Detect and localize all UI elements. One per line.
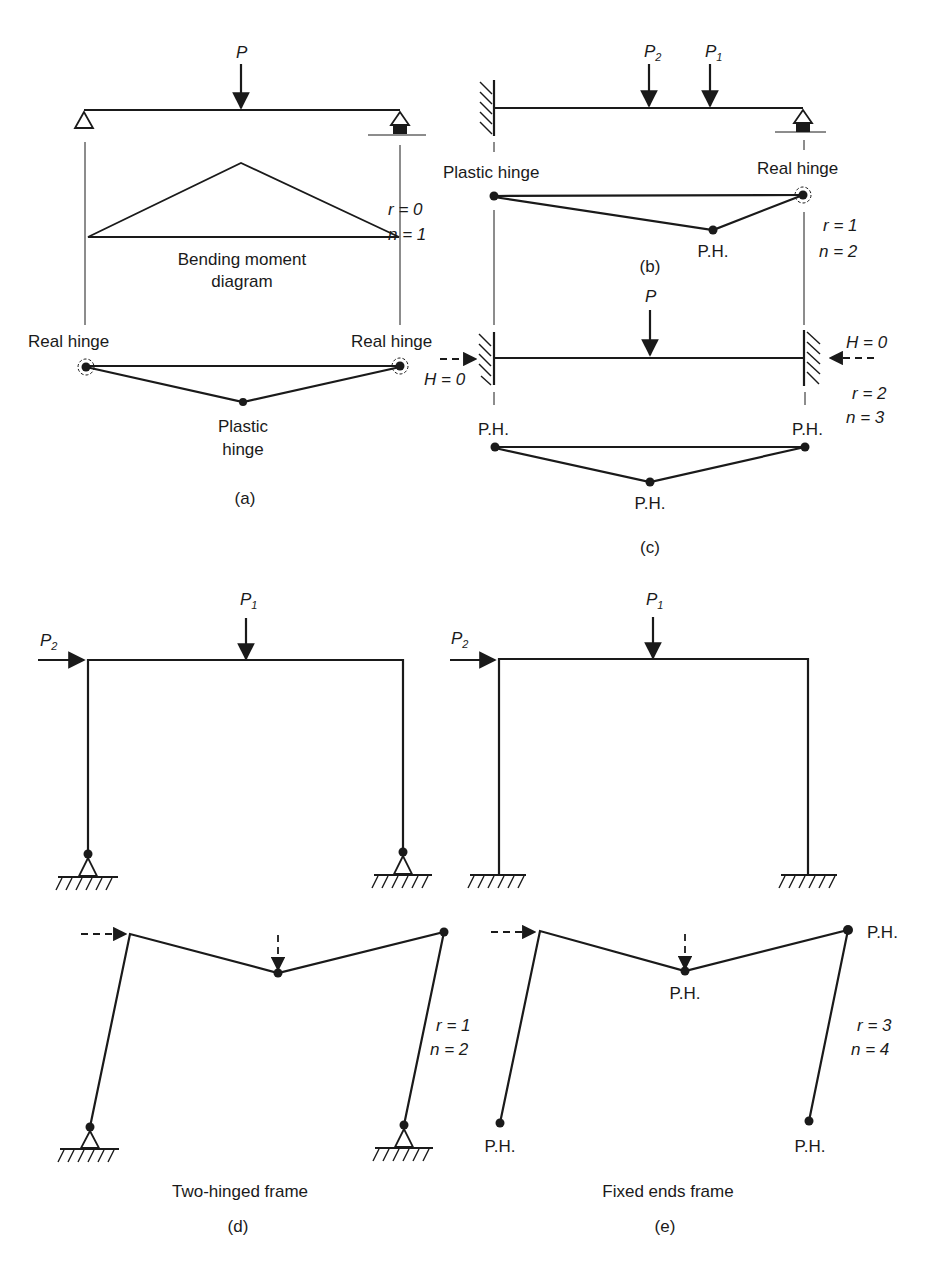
pin-support-left-icon bbox=[79, 858, 97, 876]
h-left-label: H = 0 bbox=[424, 370, 466, 389]
load-p2-label: P2 bbox=[40, 631, 57, 652]
collapse-mechanisms-figure: P Bending moment diagram r = 0 n = 1 Rea… bbox=[0, 0, 940, 1267]
panel-d: P1 P2 bbox=[38, 590, 471, 1236]
panel-e: P1 P2 P.H. P.H. P.H. P.H. r = 3 n = 4 Fi… bbox=[450, 590, 898, 1236]
panel-a: P Bending moment diagram r = 0 n = 1 Rea… bbox=[28, 43, 432, 508]
sway-mechanism-shape bbox=[500, 930, 848, 1123]
n-label: n = 2 bbox=[819, 242, 858, 261]
ground-hatch-right-icon bbox=[373, 1149, 429, 1161]
pin-support-icon bbox=[75, 112, 93, 128]
plastic-hinge-base-left-icon bbox=[496, 1119, 505, 1128]
plastic-hinge-icon bbox=[239, 398, 247, 406]
load-p1-label: P1 bbox=[646, 590, 663, 611]
h-right-label: H = 0 bbox=[846, 333, 888, 352]
n-label: n = 3 bbox=[846, 408, 885, 427]
real-hinge-right-icon bbox=[396, 362, 405, 371]
portal-frame bbox=[88, 660, 403, 854]
ph-mid-label: P.H. bbox=[635, 494, 666, 513]
ph-label: P.H. bbox=[698, 242, 729, 261]
bm-label-line1: Bending moment bbox=[178, 250, 307, 269]
ph-mid-label: P.H. bbox=[670, 984, 701, 1003]
ph-left-label: P.H. bbox=[478, 420, 509, 439]
plastic-hinge-mid-icon bbox=[709, 226, 718, 235]
ph-base-left-label: P.H. bbox=[485, 1137, 516, 1156]
load-p2-label: P2 bbox=[644, 42, 661, 63]
plastic-hinge-mid-icon bbox=[646, 478, 655, 487]
caption-b: (b) bbox=[640, 257, 661, 276]
real-hinge-label: Real hinge bbox=[757, 159, 838, 178]
plastic-hinge-right-icon bbox=[801, 443, 810, 452]
wall-hatch-left-icon bbox=[479, 334, 491, 385]
sway-mechanism-shape bbox=[90, 932, 444, 1127]
r-label: r = 1 bbox=[436, 1016, 471, 1035]
real-hinge-left-icon bbox=[82, 363, 91, 372]
r-label: r = 0 bbox=[388, 200, 423, 219]
r-label: r = 3 bbox=[857, 1016, 892, 1035]
load-p1-label: P1 bbox=[240, 590, 257, 611]
load-p-label: P bbox=[236, 43, 248, 62]
plastic-hinge-mid-icon bbox=[681, 967, 690, 976]
bm-label-line2: diagram bbox=[211, 272, 272, 291]
frame-title: Two-hinged frame bbox=[172, 1182, 308, 1201]
roller-block-icon bbox=[393, 125, 407, 134]
ph-base-right-label: P.H. bbox=[795, 1137, 826, 1156]
plastic-hinge-icon bbox=[490, 192, 499, 201]
ground-hatch-left-icon bbox=[468, 876, 524, 888]
plastic-label-line1: Plastic bbox=[218, 417, 269, 436]
frame-title: Fixed ends frame bbox=[602, 1182, 733, 1201]
n-label: n = 2 bbox=[430, 1040, 469, 1059]
plastic-hinge-left-icon bbox=[491, 443, 500, 452]
load-p1-label: P1 bbox=[705, 42, 722, 63]
caption-a: (a) bbox=[235, 489, 256, 508]
ground-hatch-right-icon bbox=[372, 876, 428, 888]
pin-support-left-icon bbox=[81, 1131, 99, 1148]
ground-hatch-left-icon bbox=[58, 1150, 114, 1162]
bending-moment-diagram bbox=[88, 163, 399, 237]
portal-frame bbox=[499, 659, 808, 875]
r-label: r = 1 bbox=[823, 216, 858, 235]
real-hinge-icon bbox=[799, 191, 808, 200]
ground-hatch-right-icon bbox=[779, 876, 835, 888]
plastic-label-line2: hinge bbox=[222, 440, 264, 459]
pin-support-right-icon bbox=[395, 1129, 413, 1147]
roller-support-icon bbox=[794, 110, 812, 123]
ph-corner-label: P.H. bbox=[867, 923, 898, 942]
ground-hatch-left-icon bbox=[56, 878, 112, 890]
r-label: r = 2 bbox=[852, 384, 887, 403]
plastic-hinge-label: Plastic hinge bbox=[443, 163, 539, 182]
caption-d: (d) bbox=[228, 1217, 249, 1236]
plastic-hinge-corner-icon bbox=[843, 925, 853, 935]
load-p2-label: P2 bbox=[451, 629, 468, 650]
caption-e: (e) bbox=[655, 1217, 676, 1236]
mechanism-chord bbox=[494, 195, 803, 196]
roller-support-icon bbox=[391, 112, 409, 125]
n-label: n = 4 bbox=[851, 1040, 889, 1059]
plastic-hinge-base-right-icon bbox=[805, 1117, 814, 1126]
ph-right-label: P.H. bbox=[792, 420, 823, 439]
roller-block-icon bbox=[796, 123, 810, 132]
real-hinge-left-label: Real hinge bbox=[28, 332, 109, 351]
load-p-label: P bbox=[645, 287, 657, 306]
caption-c: (c) bbox=[640, 538, 660, 557]
real-hinge-right-label: Real hinge bbox=[351, 332, 432, 351]
panel-c: P H = 0 H = 0 r = 2 n = 3 P.H. P.H. bbox=[424, 287, 888, 557]
n-label: n = 1 bbox=[388, 225, 426, 244]
wall-hatch-right-icon bbox=[807, 332, 820, 384]
mechanism-shape bbox=[494, 195, 803, 230]
mechanism-shape bbox=[495, 447, 805, 482]
plastic-hinge-corner-icon bbox=[440, 928, 449, 937]
panel-b: P2 P1 Plastic hinge Real hinge P.H. (b) … bbox=[443, 42, 858, 325]
plastic-hinge-mid-icon bbox=[274, 969, 283, 978]
wall-hatch-icon bbox=[480, 82, 492, 134]
mechanism-shape bbox=[86, 367, 400, 402]
pin-support-right-icon bbox=[394, 856, 412, 874]
